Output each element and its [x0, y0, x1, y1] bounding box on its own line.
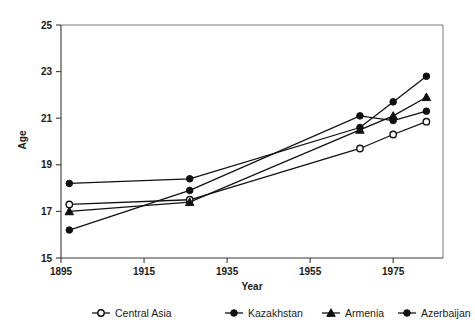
data-point-kazakhstan — [357, 113, 364, 120]
legend-label-kazakhstan: Kazakhstan — [248, 307, 303, 319]
data-point-azerbaijan — [66, 180, 73, 187]
data-point-armenia — [389, 112, 397, 120]
y-tick-label: 25 — [41, 20, 53, 31]
data-point-azerbaijan — [357, 124, 364, 131]
line-chart: 151719212325 18951915193519551975 Age Ye… — [0, 0, 475, 330]
legend-label-azerbaijan: Azerbaijan — [421, 307, 471, 319]
y-tick-label: 15 — [41, 253, 53, 264]
data-point-kazakhstan — [423, 108, 430, 115]
data-point-azerbaijan — [186, 175, 193, 182]
data-point-kazakhstan — [186, 187, 193, 194]
plot-frame-outline — [61, 25, 443, 258]
y-axis-ticks: 151719212325 — [41, 20, 61, 264]
legend-marker-azerbaijan — [404, 310, 411, 317]
series-line-central-asia — [69, 122, 426, 205]
data-point-kazakhstan — [66, 227, 73, 234]
x-axis-ticks: 18951915193519551975 — [50, 258, 405, 277]
x-tick-label: 1895 — [50, 266, 73, 277]
legend-marker-kazakhstan — [231, 310, 238, 317]
data-point-central-asia — [357, 145, 363, 151]
data-point-azerbaijan — [390, 99, 397, 106]
legend-label-armenia: Armenia — [345, 307, 384, 319]
data-point-central-asia — [423, 118, 429, 124]
x-tick-label: 1955 — [299, 266, 322, 277]
data-point-armenia — [422, 93, 430, 101]
plot-frame — [61, 25, 443, 258]
plot-axes — [61, 25, 443, 258]
series-line-kazakhstan — [69, 111, 426, 230]
y-tick-label: 19 — [41, 159, 53, 170]
y-tick-label: 21 — [41, 113, 53, 124]
series-lines — [69, 76, 426, 230]
y-axis-title: Age — [17, 130, 28, 149]
x-axis-title: Year — [241, 281, 262, 292]
data-point-central-asia — [390, 131, 396, 137]
chart-canvas: 151719212325 18951915193519551975 Age Ye… — [0, 0, 475, 330]
legend-marker-central-asia — [98, 310, 104, 316]
x-tick-label: 1915 — [133, 266, 156, 277]
chart-legend: Central AsiaKazakhstanArmeniaAzerbaijan — [92, 307, 471, 319]
series-line-azerbaijan — [69, 76, 426, 183]
series-line-armenia — [69, 97, 426, 211]
y-tick-label: 17 — [41, 206, 53, 217]
data-point-azerbaijan — [423, 73, 430, 80]
series-markers — [65, 73, 430, 233]
x-tick-label: 1935 — [216, 266, 239, 277]
y-tick-label: 23 — [41, 66, 53, 77]
x-tick-label: 1975 — [382, 266, 405, 277]
legend-label-central-asia: Central Asia — [115, 307, 172, 319]
